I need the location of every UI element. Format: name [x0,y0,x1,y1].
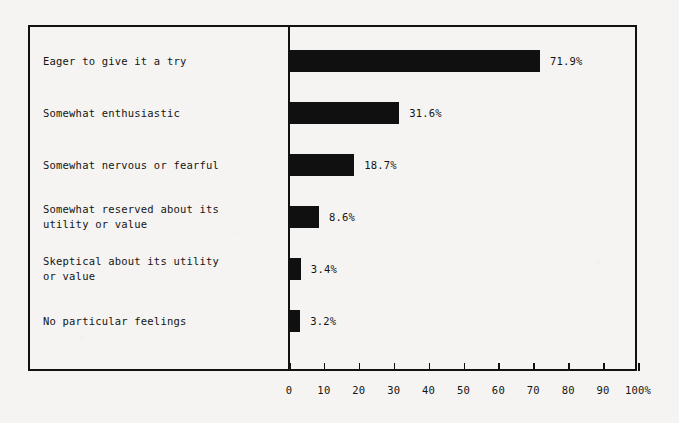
x-axis-tick-label: 80 [562,384,575,397]
x-axis-tick-label: 90 [597,384,610,397]
x-axis-tick-label: 100% [625,384,651,397]
x-axis-tick-label: 60 [492,384,505,397]
x-axis-tick [533,363,535,371]
x-axis-tick-label: 30 [387,384,400,397]
x-axis-tick [603,363,605,371]
x-axis-tick [498,363,500,371]
x-axis-tick-label: 10 [317,384,330,397]
x-axis-tick [429,363,431,371]
x-axis-tick-label: 20 [352,384,365,397]
x-axis-tick [638,363,640,371]
x-axis-tick-label: 0 [286,384,293,397]
x-axis: 0102030405060708090100% [0,0,679,423]
x-axis-tick [324,363,326,371]
x-axis-tick-label: 40 [422,384,435,397]
x-axis-tick-label: 70 [527,384,540,397]
x-axis-tick [568,363,570,371]
x-axis-tick [464,363,466,371]
x-axis-tick-label: 50 [457,384,470,397]
x-axis-tick [359,363,361,371]
x-axis-tick [289,363,291,371]
x-axis-tick [394,363,396,371]
bar-chart-figure: Eager to give it a try71.9%Somewhat enth… [0,0,679,423]
